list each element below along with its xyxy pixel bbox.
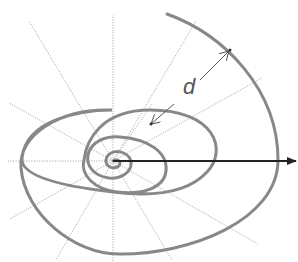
dimension-endpoint-inner [150, 123, 153, 126]
dimension-endpoint-outer [229, 49, 232, 52]
spiral-diagram [0, 0, 298, 262]
dimension-arrow-outer [200, 51, 229, 80]
ray-330 [113, 161, 258, 244]
spiral-curve [21, 14, 278, 254]
dimension-arrow-inner [151, 104, 174, 124]
distance-label: d [183, 76, 195, 98]
